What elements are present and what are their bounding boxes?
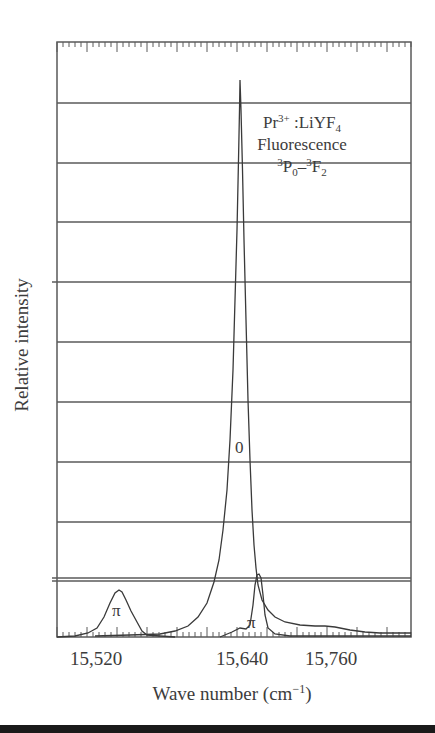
spectrum-plot: [0, 0, 435, 733]
x-tick-label-15640: 15,640: [216, 648, 268, 670]
top-axis-ticks: [57, 42, 411, 52]
x-tick-label-15520: 15,520: [70, 648, 122, 670]
annotation-line-1: Pr3+ :LiYF4: [257, 112, 347, 134]
page-divider-bar: [0, 725, 435, 733]
peak-label-pi-left: π: [112, 601, 121, 621]
peak-label-pi-right: π: [247, 613, 256, 633]
x-axis-title: Wave number (cm−1): [153, 683, 312, 705]
annotation-line-2: Fluorescence: [257, 134, 347, 156]
annotation-line-3: 3P0–3F2: [257, 156, 347, 178]
chart-annotation: Pr3+ :LiYF4 Fluorescence 3P0–3F2: [257, 112, 347, 178]
peak-label-zero: 0: [235, 438, 244, 458]
x-tick-label-15760: 15,760: [305, 648, 357, 670]
grid-lines: [52, 103, 411, 581]
y-axis-title: Relative intensity: [11, 278, 33, 412]
